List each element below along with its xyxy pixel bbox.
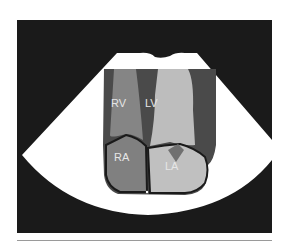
rv-label: RV xyxy=(111,97,127,109)
lv-label: LV xyxy=(145,97,158,109)
ra-label: RA xyxy=(114,151,130,163)
ra-chamber xyxy=(106,135,147,192)
divider-line xyxy=(17,240,272,241)
heart-four-chamber-diagram: RV LV RA LA xyxy=(0,0,287,249)
crux-dot xyxy=(146,191,148,193)
la-label: LA xyxy=(165,160,179,172)
